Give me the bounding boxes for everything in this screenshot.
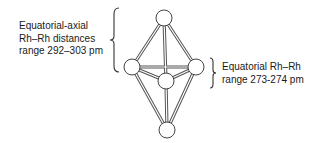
atom-left xyxy=(124,59,140,75)
equatorial-label: Equatorial Rh–Rh range 273-274 pm xyxy=(222,61,304,86)
label-line: range 273-274 pm xyxy=(222,74,304,87)
label-line: range 292–303 pm xyxy=(19,45,103,58)
label-line: Rh–Rh distances xyxy=(19,33,103,46)
equatorial-bracket xyxy=(210,58,216,88)
label-line: Equatorial Rh–Rh xyxy=(222,61,304,74)
label-line: Equatorial-axial xyxy=(19,20,103,33)
atom-top xyxy=(156,10,172,26)
atom-front xyxy=(158,73,174,89)
atom-right xyxy=(188,59,204,75)
equatorial-axial-label: Equatorial-axial Rh–Rh distances range 2… xyxy=(19,20,103,58)
atom-bottom xyxy=(159,122,175,138)
equatorial-axial-bracket xyxy=(110,8,119,72)
